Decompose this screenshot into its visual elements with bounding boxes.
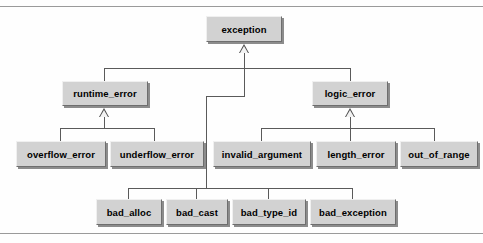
class-node-label: logic_error: [325, 88, 376, 99]
edge-drop-invalid-argument: [261, 128, 262, 141]
edge-runtime-error-stem: [104, 117, 105, 128]
class-node-label: overflow_error: [27, 149, 95, 160]
inheritance-arrow-to-logic-error: [345, 108, 355, 117]
class-node-overflow-error[interactable]: overflow_error: [16, 141, 106, 167]
edge-trunk-upper: [244, 68, 245, 96]
page-rule-bottom: [0, 233, 483, 234]
class-node-label: bad_cast: [176, 207, 218, 218]
class-node-out-of-range[interactable]: out_of_range: [400, 141, 478, 167]
edge-drop-bad-type-id: [268, 188, 269, 199]
edge-trunk-lower: [206, 96, 207, 188]
edge-drop-bad-exception: [352, 188, 353, 199]
class-node-label: bad_exception: [319, 207, 387, 218]
inheritance-arrow-to-runtime-error: [99, 108, 109, 117]
edge-drop-overflow-error: [60, 128, 61, 141]
class-node-label: invalid_argument: [222, 149, 302, 160]
class-node-label: length_error: [327, 149, 384, 160]
class-node-label: bad_alloc: [107, 207, 152, 218]
edge-drop-underflow-error: [154, 128, 155, 141]
edge-exception-stem: [244, 53, 245, 68]
class-node-bad-cast[interactable]: bad_cast: [166, 199, 228, 225]
class-node-runtime-error[interactable]: runtime_error: [62, 81, 148, 106]
class-diagram-canvas: exception runtime_error logic_error over…: [0, 0, 483, 243]
edge-bus-bad-classes: [128, 188, 353, 189]
class-node-label: exception: [221, 24, 266, 35]
edge-drop-bad-alloc: [128, 188, 129, 199]
class-node-underflow-error[interactable]: underflow_error: [110, 141, 204, 167]
class-node-length-error[interactable]: length_error: [316, 141, 396, 167]
class-node-invalid-argument[interactable]: invalid_argument: [213, 141, 311, 167]
edge-drop-length-error: [350, 128, 351, 141]
inheritance-arrow-to-exception: [239, 44, 249, 53]
class-node-bad-alloc[interactable]: bad_alloc: [96, 199, 162, 225]
class-node-label: underflow_error: [120, 149, 194, 160]
edge-drop-out-of-range: [434, 128, 435, 141]
class-node-logic-error[interactable]: logic_error: [312, 81, 388, 106]
edge-trunk-jog: [206, 96, 245, 97]
class-node-label: bad_type_id: [241, 207, 298, 218]
class-node-exception[interactable]: exception: [206, 16, 282, 42]
class-node-label: runtime_error: [73, 88, 137, 99]
page-rule-top: [0, 6, 483, 7]
edge-bus-logic-children: [261, 128, 434, 129]
class-node-bad-exception[interactable]: bad_exception: [310, 199, 396, 225]
edge-logic-error-stem: [350, 117, 351, 128]
edge-bus-runtime-children: [60, 128, 154, 129]
edge-drop-bad-cast: [196, 188, 197, 199]
edge-drop-logic-error: [350, 68, 351, 81]
class-node-label: out_of_range: [408, 149, 469, 160]
class-node-bad-type-id[interactable]: bad_type_id: [232, 199, 306, 225]
edge-drop-runtime-error: [104, 68, 105, 81]
edge-bus-exception-children: [104, 68, 350, 69]
